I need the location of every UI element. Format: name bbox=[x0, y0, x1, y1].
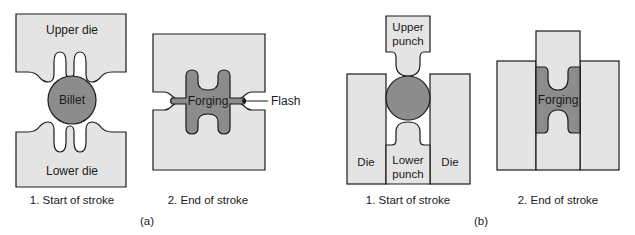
panel-b-step2: Forging 2. End of stroke bbox=[497, 31, 619, 206]
left-die-closed bbox=[497, 61, 536, 170]
lower-die-label: Lower die bbox=[46, 164, 98, 178]
panel-a-step2: Forging Flash 2. End of stroke bbox=[153, 34, 300, 206]
right-die-label: Die bbox=[441, 156, 458, 168]
forging-label-b: Forging bbox=[538, 93, 579, 107]
billet-b bbox=[386, 76, 430, 120]
lower-punch-label-2: punch bbox=[392, 168, 423, 180]
flash-marker bbox=[242, 99, 246, 103]
caption-b1: 1. Start of stroke bbox=[366, 194, 450, 206]
upper-die-label: Upper die bbox=[46, 23, 98, 37]
upper-die-closed bbox=[153, 34, 265, 99]
panel-b-step1: Upper punch Lower punch Die Die 1. Start… bbox=[347, 16, 470, 206]
billet-label: Billet bbox=[59, 93, 86, 107]
upper-punch-label-2: punch bbox=[392, 35, 423, 47]
right-die-closed bbox=[580, 61, 619, 170]
caption-b2: 2. End of stroke bbox=[518, 194, 599, 206]
panel-b-tag: (b) bbox=[474, 215, 488, 227]
caption-a2: 2. End of stroke bbox=[168, 194, 249, 206]
panel-a-step1: Upper die Lower die Billet 1. Start of s… bbox=[16, 14, 126, 206]
panel-a-tag: (a) bbox=[140, 215, 154, 227]
left-die-label: Die bbox=[357, 156, 374, 168]
caption-a1: 1. Start of stroke bbox=[30, 194, 114, 206]
upper-punch-label-1: Upper bbox=[392, 21, 423, 33]
forging-diagram: Upper die Lower die Billet 1. Start of s… bbox=[0, 0, 635, 235]
flash-label: Flash bbox=[271, 94, 300, 108]
forging-label-a: Forging bbox=[188, 94, 229, 108]
lower-punch-label-1: Lower bbox=[392, 154, 423, 166]
